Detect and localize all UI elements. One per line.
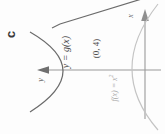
axis-label-x: x	[127, 14, 135, 18]
curve-label-inner-text: f(x) = x	[110, 77, 119, 101]
curve-outer-g-tail-top	[52, 24, 60, 28]
vertical-axis	[141, 9, 149, 119]
graph-canvas	[0, 0, 165, 134]
curve-label-outer: y = g(x)	[61, 29, 71, 75]
curve-label-inner: f(x) = x2	[111, 71, 119, 105]
panel-letter: c	[4, 31, 17, 38]
point-label-0-4: (0, 4)	[92, 35, 101, 63]
horizontal-axis	[37, 66, 161, 74]
curve-label-inner-exponent: 2	[108, 75, 114, 78]
axis-label-y: y	[37, 78, 45, 82]
figure-panel: c x y y = g(x) (0, 4) f(x) = x2	[0, 0, 165, 134]
horizontal-axis-arrowhead-icon	[37, 66, 49, 74]
